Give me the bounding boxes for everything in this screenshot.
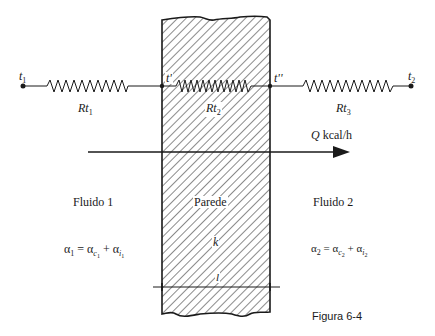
node-t-prime-dot: [160, 84, 164, 88]
node-t1-label: t1: [19, 70, 26, 85]
heat-flow-label: Q kcal/h: [311, 129, 352, 141]
resistance-rt3-label: Rt3: [336, 102, 351, 117]
resistance-rt2-label: Rt2: [205, 102, 222, 117]
resistance-rt1-label: Rt1: [78, 102, 93, 117]
figure-caption: Figura 6-4: [312, 311, 362, 322]
fluid-2-coefficient-equation: α2 = αc2 + αi2: [311, 243, 368, 258]
wall-thickness-label: l: [215, 272, 220, 283]
wall-label: Parede: [193, 196, 228, 208]
wall-conductivity-label: k: [212, 236, 219, 248]
fluid-2-label: Fluido 2: [313, 196, 353, 208]
node-t-prime-label: t': [165, 72, 173, 84]
resistor-rt3: [303, 80, 393, 92]
fluid-1-coefficient-equation: α1 = αc1 + αi1: [64, 243, 124, 259]
node-t-double-prime-label: t'': [274, 72, 282, 84]
resistor-rt1: [47, 80, 128, 92]
node-t2-label: t2: [408, 70, 415, 85]
fluid-1-label: Fluido 1: [73, 196, 113, 208]
diagram-canvas: [0, 0, 435, 336]
heat-flow-arrowhead: [333, 146, 350, 158]
node-t-double-prime-dot: [268, 84, 272, 88]
